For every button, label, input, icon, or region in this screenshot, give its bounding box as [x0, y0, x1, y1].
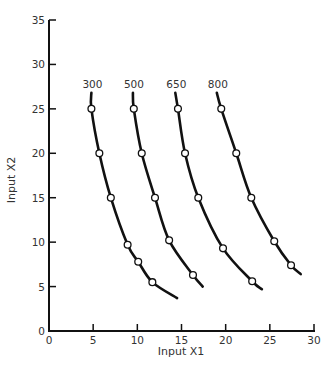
- x-tick-label: 30: [307, 334, 320, 346]
- data-point-marker: [130, 105, 137, 112]
- data-point-marker: [218, 105, 225, 112]
- x-tick-label: 20: [219, 334, 232, 346]
- x-tick-label: 0: [46, 334, 53, 346]
- curve-label: 500: [124, 78, 144, 90]
- data-point-marker: [288, 262, 295, 269]
- data-point-marker: [233, 150, 240, 157]
- y-tick-label: 10: [32, 236, 45, 248]
- data-point-marker: [182, 150, 189, 157]
- curve-label: 300: [82, 78, 102, 90]
- data-point-marker: [175, 105, 182, 112]
- isoquant-chart: 05101520253035051015202530 300500650800 …: [0, 0, 336, 371]
- data-point-marker: [124, 241, 131, 248]
- curve-label: 800: [208, 78, 228, 90]
- y-tick-label: 35: [32, 14, 45, 26]
- data-point-marker: [248, 194, 255, 201]
- x-tick-label: 5: [90, 334, 97, 346]
- data-point-marker: [195, 194, 202, 201]
- x-tick-label: 10: [131, 334, 144, 346]
- data-point-marker: [88, 105, 95, 112]
- x-axis-label: Input X1: [158, 345, 205, 358]
- curve-label: 650: [166, 78, 186, 90]
- curve-line: [217, 93, 301, 274]
- isoquant-300: 300: [82, 78, 177, 298]
- data-point-marker: [107, 194, 114, 201]
- y-tick-label: 0: [38, 325, 45, 337]
- y-tick-label: 25: [32, 103, 45, 115]
- curves: 300500650800: [82, 78, 300, 298]
- data-point-marker: [149, 279, 156, 286]
- x-tick-label: 25: [263, 334, 276, 346]
- data-point-marker: [152, 194, 159, 201]
- y-tick-label: 5: [38, 281, 45, 293]
- y-tick-label: 15: [32, 192, 45, 204]
- data-point-marker: [166, 237, 173, 244]
- isoquant-500: 500: [124, 78, 203, 287]
- data-point-marker: [138, 150, 145, 157]
- curve-line: [91, 93, 177, 298]
- data-point-marker: [96, 150, 103, 157]
- data-point-marker: [249, 278, 256, 285]
- data-point-marker: [271, 238, 278, 245]
- data-point-marker: [135, 258, 142, 265]
- data-point-marker: [220, 245, 227, 252]
- curve-line: [133, 93, 203, 287]
- data-point-marker: [190, 272, 197, 279]
- y-tick-label: 20: [32, 147, 45, 159]
- y-axis-label: Input X2: [5, 157, 18, 204]
- y-tick-label: 30: [32, 58, 45, 70]
